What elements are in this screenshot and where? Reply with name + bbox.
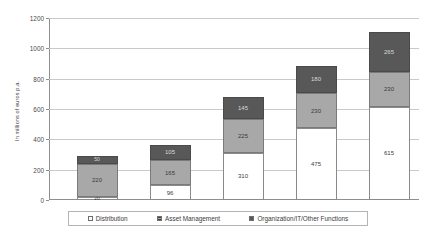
legend-label: Asset Management xyxy=(165,215,220,222)
bar-group[interactable]: 2022050 xyxy=(77,18,118,200)
legend-label: Distribution xyxy=(96,215,128,222)
stacked-bar-chart: In millions of euros p.a. 02004006008001… xyxy=(0,0,434,238)
bar-value-label: 50 xyxy=(94,157,100,162)
bar-segment[interactable]: 615 xyxy=(369,107,410,200)
bar-value-label: 475 xyxy=(311,161,321,167)
bar-value-label: 145 xyxy=(238,105,248,111)
legend-swatch-icon xyxy=(157,216,162,221)
bar-group[interactable]: 96165105 xyxy=(150,18,191,200)
bar-value-label: 105 xyxy=(165,149,175,155)
bar-value-label: 225 xyxy=(238,133,248,139)
bar-segment[interactable]: 230 xyxy=(296,93,337,128)
bar-value-label: 265 xyxy=(384,49,394,55)
plot-area: 020040060080010001200 202205096165105310… xyxy=(49,18,419,200)
legend-item[interactable]: Asset Management xyxy=(157,215,220,222)
bar-segment[interactable]: 475 xyxy=(296,128,337,200)
bar-segment[interactable]: 225 xyxy=(223,119,264,153)
legend-item[interactable]: Organization/IT/Other Functions xyxy=(249,215,348,222)
bar-segment[interactable]: 50 xyxy=(77,156,118,164)
y-axis-tick-label: 1200 xyxy=(30,15,44,22)
bar-value-label: 96 xyxy=(167,190,174,196)
legend-swatch-icon xyxy=(249,216,254,221)
legend-swatch-icon xyxy=(88,216,93,221)
bar-segment[interactable]: 220 xyxy=(77,164,118,197)
bar-segment[interactable]: 96 xyxy=(150,185,191,200)
legend-label: Organization/IT/Other Functions xyxy=(257,215,348,222)
y-axis-tick-label: 800 xyxy=(33,75,44,82)
chart-legend: DistributionAsset ManagementOrganization… xyxy=(68,211,368,226)
bar-value-label: 220 xyxy=(92,177,102,183)
bar-segment[interactable]: 20 xyxy=(77,197,118,200)
bar-segment[interactable]: 230 xyxy=(369,72,410,107)
y-axis-tick-label: 600 xyxy=(33,106,44,113)
bars-layer: 2022050961651053102251454752301806152302… xyxy=(49,18,419,200)
y-axis-tick-label: 400 xyxy=(33,136,44,143)
y-axis-tick-label: 1000 xyxy=(30,45,44,52)
bar-value-label: 230 xyxy=(311,108,321,114)
y-axis-tick-label: 200 xyxy=(33,166,44,173)
bar-group[interactable]: 310225145 xyxy=(223,18,264,200)
y-axis-tick xyxy=(46,200,49,201)
bar-group[interactable]: 615230265 xyxy=(369,18,410,200)
bar-segment[interactable]: 145 xyxy=(223,97,264,119)
bar-value-label: 615 xyxy=(384,150,394,156)
bar-segment[interactable]: 265 xyxy=(369,32,410,72)
bar-value-label: 230 xyxy=(384,86,394,92)
legend-item[interactable]: Distribution xyxy=(88,215,128,222)
bar-segment[interactable]: 105 xyxy=(150,145,191,161)
bar-segment[interactable]: 165 xyxy=(150,160,191,185)
bar-value-label: 165 xyxy=(165,170,175,176)
bar-segment[interactable]: 180 xyxy=(296,66,337,93)
bar-group[interactable]: 475230180 xyxy=(296,18,337,200)
y-axis-title: In millions of euros p.a. xyxy=(14,56,20,166)
y-axis-tick-label: 0 xyxy=(40,197,44,204)
bar-segment[interactable]: 310 xyxy=(223,153,264,200)
bar-value-label: 310 xyxy=(238,173,248,179)
bar-value-label: 180 xyxy=(311,76,321,82)
